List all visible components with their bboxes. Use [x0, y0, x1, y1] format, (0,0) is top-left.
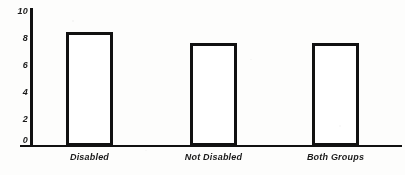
x-tick-label-both-groups: Both Groups — [292, 152, 379, 162]
x-tick-label-not-disabled: Not Disabled — [170, 152, 257, 162]
bar-not-disabled — [190, 43, 237, 146]
y-tick-label: 2 — [4, 115, 28, 124]
y-tick-label: 8 — [4, 34, 28, 43]
bar-both-groups — [312, 43, 359, 146]
plot-area: 10 8 6 4 2 0 Disabled Not Disabled Both … — [0, 0, 405, 175]
y-tick-label: 0 — [4, 136, 28, 145]
x-tick-label-disabled: Disabled — [49, 152, 130, 162]
bar-disabled — [66, 32, 113, 146]
y-tick-label: 10 — [4, 7, 28, 16]
y-tick-label: 4 — [4, 88, 28, 97]
y-tick-label: 6 — [4, 61, 28, 70]
y-axis-line — [30, 8, 33, 147]
chart-figure: 10 8 6 4 2 0 Disabled Not Disabled Both … — [0, 0, 405, 175]
